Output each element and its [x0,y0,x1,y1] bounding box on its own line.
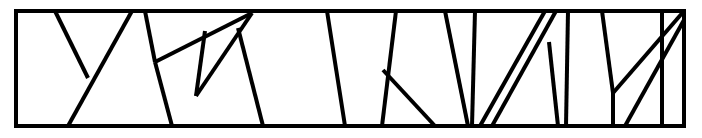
outer-rectangle [16,11,684,126]
segment-right-cell-wall-c [566,11,568,126]
line-drawing-svg [0,0,702,138]
figure-canvas [0,0,702,138]
